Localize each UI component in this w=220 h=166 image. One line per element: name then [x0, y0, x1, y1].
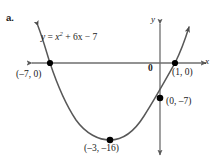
equation-equals: = — [45, 32, 55, 42]
equation-rest: + 6x − 7 — [63, 32, 97, 42]
point-label-x-intercept-right: (1, 0) — [172, 68, 193, 78]
graph-canvas — [0, 0, 220, 166]
origin-label: 0 — [148, 64, 153, 74]
point-label-y-intercept: (0, –7) — [166, 97, 191, 107]
point-x-intercept-right — [172, 60, 178, 66]
x-axis-label: x — [205, 57, 209, 66]
y-axis-label: y — [151, 15, 155, 24]
equation-label: y = x2 + 6x − 7 — [41, 33, 97, 43]
point-label-vertex: (–3, –16) — [84, 144, 119, 154]
point-x-intercept-left — [47, 60, 53, 66]
point-y-intercept — [157, 95, 164, 102]
parabola-figure: a. y = x2 + 6x − 7 x y 0 (–7, 0) (1, 0) … — [0, 0, 220, 166]
part-label: a. — [6, 13, 14, 23]
parabola-curve — [38, 26, 189, 140]
point-label-x-intercept-left: (–7, 0) — [16, 70, 41, 80]
